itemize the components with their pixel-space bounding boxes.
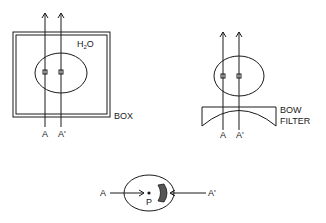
crescent-shape (158, 184, 167, 202)
diagram-canvas: A A' H2O BOX A A' BOW FILTER P A A' (0, 0, 326, 223)
bow-label: BOW (280, 105, 302, 115)
box-label: BOX (114, 111, 133, 121)
filter-label: FILTER (280, 116, 311, 126)
medium-label: H2O (77, 39, 94, 50)
top-view-panel: P A A' (100, 175, 216, 211)
point-label: P (146, 197, 152, 207)
beam-label-a-prime: A' (58, 129, 66, 139)
beam-label-a-prime: A' (208, 188, 216, 198)
beam-label-a: A (100, 188, 106, 198)
beam-label-a: A (220, 130, 226, 140)
bow-filter-panel: A A' BOW FILTER (202, 32, 311, 140)
point-p-dot (147, 191, 150, 194)
beam-label-a-prime: A' (236, 130, 244, 140)
box-panel: A A' H2O BOX (13, 13, 133, 139)
beam-label-a: A (42, 129, 48, 139)
